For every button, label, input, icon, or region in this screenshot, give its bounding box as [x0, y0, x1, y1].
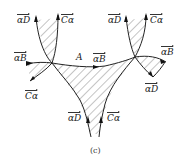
phase-diagram: αD Cα αB Cα A αB αD Cα αB αD αD Cα (c)	[0, 0, 183, 162]
label-center-aB: αB	[93, 52, 106, 64]
label-right-top-aD: αD	[108, 13, 121, 25]
arrow-left-Ca-icon	[56, 13, 60, 20]
label-right-top-Ca: Cα	[150, 13, 163, 25]
label-right-aB: αB	[161, 45, 174, 57]
arrow-left-aD-icon	[34, 15, 38, 22]
figure-caption: (c)	[90, 146, 101, 155]
label-bottom-Ca: Cα	[107, 111, 120, 123]
label-bottom-aD: αD	[68, 111, 81, 123]
hatched-region-left-bottom	[28, 62, 52, 80]
arrow-right-aD-icon	[124, 15, 128, 22]
label-left-Ca: Cα	[25, 89, 38, 101]
label-left-top-aD: αD	[17, 13, 30, 25]
label-left-aB: αB	[14, 51, 27, 63]
arrow-right-Ca-icon	[144, 13, 148, 20]
hatched-region-left-top	[38, 18, 58, 63]
label-right-aD: αD	[145, 82, 158, 94]
region-label-A: A	[76, 52, 83, 62]
label-left-top-Ca: Cα	[61, 13, 74, 25]
